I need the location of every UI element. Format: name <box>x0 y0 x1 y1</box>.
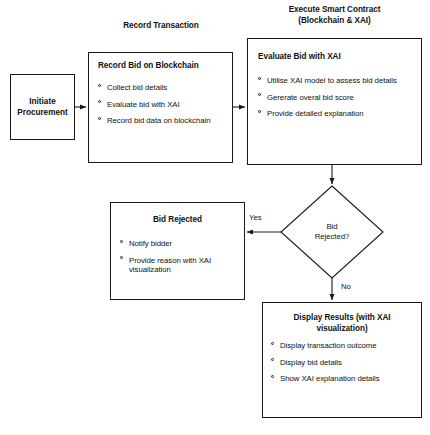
flowchart-canvas: Record Transaction Execute Smart Contrac… <box>0 0 430 435</box>
list-item: Notify bidder <box>120 239 237 249</box>
node-bid-rejected[interactable]: Bid Rejected Notify bidder Provide reaso… <box>110 202 245 300</box>
decision-label-line2: Rejected? <box>281 232 383 242</box>
list-item-text: Evaluate bid with XAI <box>107 100 180 109</box>
list-item-text: Show XAI explanation details <box>280 374 380 383</box>
lane-title-execute-smart-contract: Execute Smart Contract (Blockchain & XAI… <box>252 5 417 26</box>
list-item-text: Notify bidder <box>129 239 172 248</box>
bullet-circle-icon <box>271 342 274 345</box>
node-record-bid-on-blockchain[interactable]: Record Bid on Blockchain Collect bid det… <box>88 52 233 163</box>
list-item-text: Utilise XAI model to assess bid details <box>267 76 397 85</box>
edge-label-no: No <box>341 282 351 291</box>
node-bid-rejected-title: Bid Rejected <box>111 215 244 226</box>
bullet-circle-icon <box>120 256 123 259</box>
node-evaluate-bid-bullets: Utilise XAI model to assess bid details … <box>258 76 413 119</box>
node-initiate-procurement[interactable]: Initiate Procurement <box>10 74 75 140</box>
list-item: Collect bid details <box>98 83 225 93</box>
list-item-text: Display bid details <box>280 358 342 367</box>
list-item: Display transaction outcome <box>271 341 416 351</box>
bullet-circle-icon <box>98 117 101 120</box>
lane-title-record-transaction: Record Transaction <box>101 21 221 32</box>
display-results-title-line2: visualization) <box>271 324 413 335</box>
list-item: Display bid details <box>271 358 416 368</box>
node-display-results-bullets: Display transaction outcome Display bid … <box>271 341 416 384</box>
list-item: Show XAI explanation details <box>271 374 416 384</box>
node-evaluate-bid-title: Evaluate Bid with XAI <box>258 52 341 63</box>
list-item: Record bid data on blockchain <box>98 116 225 126</box>
list-item-text: Display transaction outcome <box>280 341 377 350</box>
node-initiate-procurement-label: Initiate Procurement <box>17 96 68 118</box>
node-display-results[interactable]: Display Results (with XAI visualization)… <box>262 302 422 418</box>
list-item-text: Provide reason with XAI visualization <box>129 256 211 275</box>
display-results-title-line1: Display Results (with XAI <box>271 313 413 324</box>
list-item-text: Provide detailed explanation <box>267 109 364 118</box>
list-item: Evaluate bid with XAI <box>98 100 225 110</box>
decision-label-line1: Bid <box>281 222 383 232</box>
bullet-circle-icon <box>258 77 261 80</box>
decision-label: Bid Rejected? <box>281 222 383 242</box>
list-item: Utilise XAI model to assess bid details <box>258 76 413 86</box>
node-evaluate-bid-with-xai[interactable]: Evaluate Bid with XAI Utilise XAI model … <box>247 38 422 165</box>
bullet-circle-icon <box>258 93 261 96</box>
node-bid-rejected-bullets: Notify bidder Provide reason with XAI vi… <box>120 239 237 275</box>
list-item: Gererate overal bid score <box>258 93 413 103</box>
bullet-circle-icon <box>271 358 274 361</box>
list-item-text: Gererate overal bid score <box>267 93 354 102</box>
initiate-label-line1: Initiate <box>17 96 68 107</box>
node-display-results-title: Display Results (with XAI visualization) <box>271 313 413 334</box>
lane-title-line2: (Blockchain & XAI) <box>252 16 417 27</box>
list-item: Provide detailed explanation <box>258 109 413 119</box>
bullet-circle-icon <box>258 110 261 113</box>
list-item: Provide reason with XAI visualization <box>120 256 237 275</box>
list-item-text: Collect bid details <box>107 83 167 92</box>
lane-title-line1: Execute Smart Contract <box>252 5 417 16</box>
bullet-circle-icon <box>98 100 101 103</box>
edge-label-yes: Yes <box>249 213 262 222</box>
bullet-circle-icon <box>120 240 123 243</box>
node-decision-bid-rejected[interactable]: Bid Rejected? <box>281 186 383 278</box>
bullet-circle-icon <box>271 375 274 378</box>
initiate-label-line2: Procurement <box>17 107 68 118</box>
list-item-text: Record bid data on blockchain <box>107 116 210 125</box>
node-record-bid-title: Record Bid on Blockchain <box>98 61 199 72</box>
bullet-circle-icon <box>98 84 101 87</box>
node-record-bid-bullets: Collect bid details Evaluate bid with XA… <box>98 83 225 126</box>
